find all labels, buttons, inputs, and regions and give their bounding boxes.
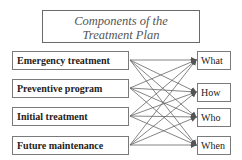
component-emergency-treatment: Emergency treatment bbox=[12, 51, 129, 70]
title-line-2: Treatment Plan bbox=[43, 28, 199, 42]
question-when: When bbox=[197, 136, 231, 155]
question-how: How bbox=[197, 83, 231, 102]
component-future-maintenance: Future maintenance bbox=[12, 136, 129, 155]
question-what: What bbox=[197, 51, 231, 70]
question-who: Who bbox=[197, 108, 231, 127]
title-line-1: Components of the bbox=[43, 14, 199, 28]
component-initial-treatment: Initial treatment bbox=[12, 107, 129, 126]
component-preventive-program: Preventive program bbox=[12, 79, 129, 98]
diagram-title: Components of the Treatment Plan bbox=[42, 10, 200, 43]
